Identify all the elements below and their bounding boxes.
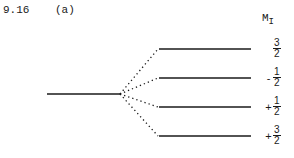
level-sign: + <box>264 130 273 142</box>
level-sign: + <box>264 101 273 113</box>
split-level-lines <box>159 49 251 136</box>
level-label-4: + 32 <box>264 125 281 146</box>
splitting-dotted-lines <box>120 49 158 136</box>
level-label-1: 32 <box>264 38 281 59</box>
level-sign: - <box>264 72 273 84</box>
level-label-2: - 12 <box>264 67 281 88</box>
energy-level-diagram <box>0 0 294 158</box>
level-label-3: + 12 <box>264 96 281 117</box>
